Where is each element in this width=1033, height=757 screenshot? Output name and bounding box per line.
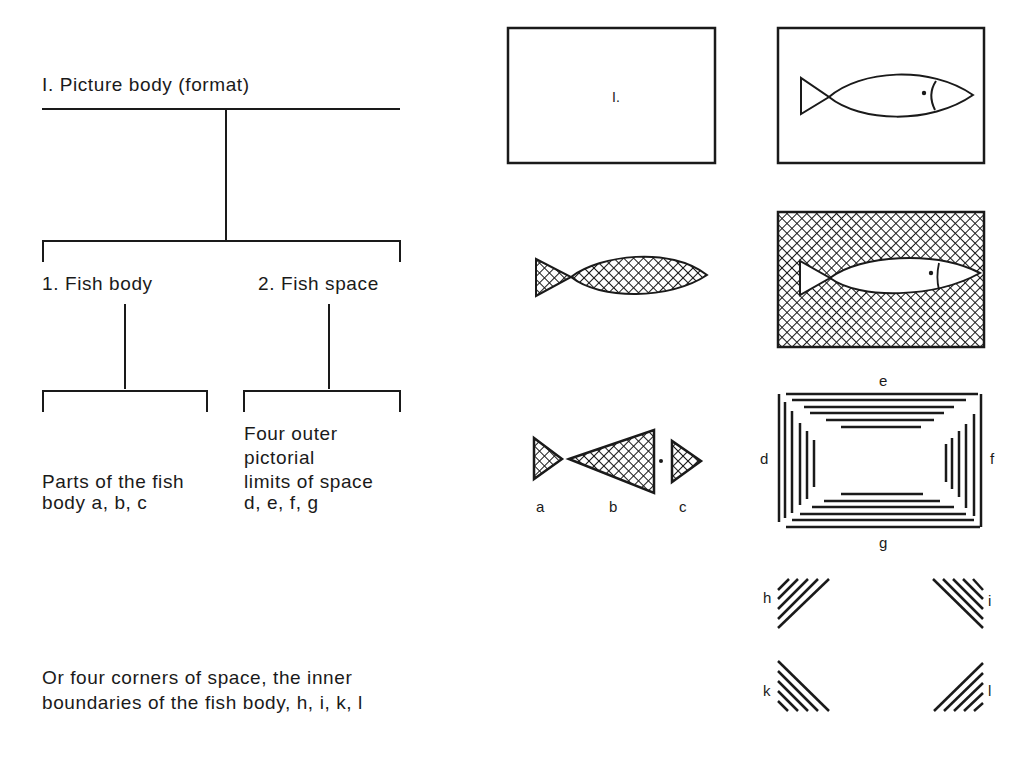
outline-fish-box [778, 28, 984, 163]
corner-label-k: k [763, 683, 771, 699]
limit-label-d: d [760, 451, 768, 467]
corners-figure [778, 579, 983, 711]
corner-label-l: l [988, 683, 991, 699]
fish-outline-icon [801, 75, 973, 117]
corner-label-i: i [988, 593, 991, 609]
format-box-label: I. [612, 89, 620, 105]
part-label-c: c [679, 499, 687, 515]
fish-parts-figure [534, 430, 701, 493]
limit-label-g: g [879, 535, 887, 551]
corner-label-h: h [763, 590, 771, 606]
outer-limits-figure [779, 394, 981, 527]
limit-label-e: e [879, 373, 887, 389]
hatched-fish-figure [536, 257, 707, 296]
part-label-a: a [536, 499, 544, 515]
fish-space-box [778, 212, 984, 347]
limit-label-f: f [990, 451, 994, 467]
part-label-b: b [609, 499, 617, 515]
